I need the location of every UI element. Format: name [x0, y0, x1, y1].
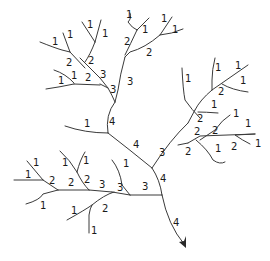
order-label: 1	[161, 13, 167, 24]
order-label: 1	[240, 75, 246, 86]
stream-order-diagram: 1 1 1 1 2 2 1 1 2 3 3 1 1 2 1 1 2 3 4 1 …	[0, 0, 270, 261]
order-label: 1	[58, 75, 64, 86]
order-label: 2	[68, 177, 74, 188]
order-label: 1	[62, 157, 68, 168]
order-label: 2	[88, 55, 94, 66]
segment-order-2	[188, 110, 195, 123]
arrow-head-icon	[179, 236, 186, 248]
segment-order-3	[89, 190, 112, 192]
segment-order-3	[152, 123, 188, 168]
segment-order-1	[95, 20, 101, 42]
order-labels: 1 1 1 1 2 2 1 1 2 3 3 1 1 2 1 1 2 3 4 1 …	[25, 9, 261, 236]
order-label: 1	[215, 143, 221, 154]
order-label: 4	[160, 173, 166, 184]
order-label: 3	[100, 69, 106, 80]
order-label: 1	[245, 118, 251, 129]
segment-order-2	[195, 90, 212, 110]
order-label: 1	[40, 200, 46, 211]
order-label: 1	[255, 138, 261, 149]
order-label: 3	[159, 147, 165, 158]
order-label: 1	[142, 24, 148, 35]
order-label: 3	[110, 84, 116, 95]
order-label: 4	[133, 139, 139, 150]
order-label: 2	[49, 175, 55, 186]
order-label: 2	[102, 203, 108, 214]
segment-order-2	[235, 134, 255, 144]
order-label: 1	[123, 158, 129, 169]
stream-network	[14, 13, 255, 248]
order-label: 1	[71, 70, 77, 81]
order-label: 2	[146, 47, 152, 58]
order-label: 1	[52, 36, 58, 47]
order-label: 1	[87, 19, 93, 30]
order-label: 2	[197, 113, 203, 124]
order-label: 4	[173, 217, 179, 228]
order-label: 2	[84, 174, 90, 185]
order-label: 1	[215, 62, 221, 73]
order-label: 1	[71, 205, 77, 216]
order-label: 2	[212, 125, 218, 136]
order-label: 1	[126, 9, 132, 20]
order-label: 1	[83, 155, 89, 166]
order-label: 1	[33, 157, 39, 168]
order-label: 2	[66, 57, 72, 68]
order-label: 1	[211, 99, 217, 110]
order-label: 3	[127, 76, 133, 87]
order-label: 3	[99, 179, 105, 190]
order-label: 1	[84, 118, 90, 129]
order-label: 2	[185, 146, 191, 157]
order-label: 4	[109, 116, 115, 127]
order-label: 2	[85, 72, 91, 83]
order-label: 3	[117, 182, 123, 193]
order-label: 1	[91, 225, 97, 236]
order-label: 1	[172, 24, 178, 35]
order-label: 1	[233, 108, 239, 119]
order-label: 2	[231, 141, 237, 152]
order-label: 1	[102, 28, 108, 39]
order-label: 1	[25, 169, 31, 180]
order-label: 1	[185, 73, 191, 84]
segment-order-3	[115, 57, 125, 102]
order-label: 1	[235, 60, 241, 71]
segment-order-2	[178, 143, 188, 145]
order-label: 2	[124, 36, 130, 47]
order-label: 3	[142, 181, 148, 192]
order-label: 2	[218, 86, 224, 97]
order-label: 1	[67, 29, 73, 40]
segment-order-2	[74, 84, 100, 85]
order-label: 2	[194, 126, 200, 137]
